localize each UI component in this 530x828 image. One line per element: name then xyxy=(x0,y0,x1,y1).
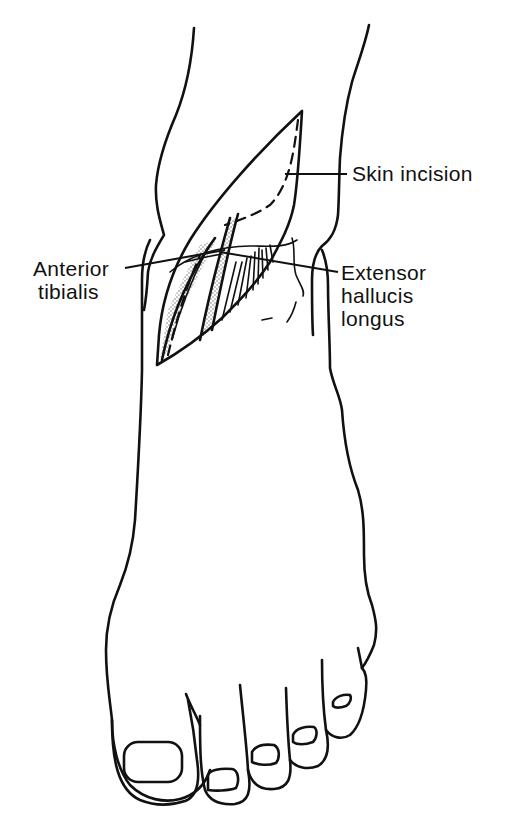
toe5-nail xyxy=(333,695,351,708)
toe3-nail xyxy=(252,745,279,765)
label-anterior-tibialis-line2: tibialis xyxy=(38,281,99,303)
label-ehl-line3: longus xyxy=(341,308,405,330)
label-ehl-line1: Extensor xyxy=(341,262,426,284)
skin-incision-shape xyxy=(157,111,303,365)
toes xyxy=(112,660,366,805)
label-skin-incision: Skin incision xyxy=(352,163,473,185)
leader-ehl xyxy=(220,252,338,272)
toe2-nail xyxy=(208,769,238,791)
foot-drawing xyxy=(0,0,530,828)
foot-incision-diagram: Skin incision Anterior tibialis Extensor… xyxy=(0,0,530,828)
label-ehl-line2: hallucis xyxy=(341,285,413,307)
label-anterior-tibialis-line1: Anterior xyxy=(33,258,109,280)
leader-anterior-tibialis xyxy=(125,250,225,268)
big-toe-nail xyxy=(124,742,182,782)
leg-outline xyxy=(106,25,376,801)
toe4-nail xyxy=(293,727,317,744)
